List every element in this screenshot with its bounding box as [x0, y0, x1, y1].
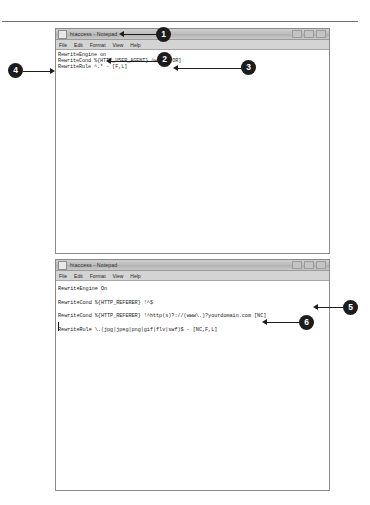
window-1-line-3: RewriteRule ^.* - [F,L] — [58, 64, 327, 70]
menu-file[interactable]: File — [59, 273, 67, 279]
window-2-titlebar[interactable]: htaccess - Notepad — [56, 260, 329, 271]
minimize-button[interactable] — [292, 261, 302, 269]
callout-5-arrow — [313, 304, 318, 310]
callout-5: 5 — [343, 300, 358, 315]
window-1-menubar[interactable]: File Edit Format View Help — [56, 40, 329, 50]
callout-3-arrow — [173, 65, 178, 71]
callout-4-arrow — [50, 68, 55, 74]
callout-1: 1 — [156, 27, 171, 42]
callout-2: 2 — [157, 52, 172, 67]
callout-6: 6 — [299, 315, 314, 330]
maximize-button[interactable] — [304, 30, 314, 38]
callout-2-arrow — [106, 58, 111, 64]
callout-5-leader — [318, 307, 344, 308]
minimize-button[interactable] — [292, 30, 302, 38]
menu-format[interactable]: Format — [90, 273, 106, 279]
menu-file[interactable]: File — [59, 42, 67, 48]
window-1-title: htaccess - Notepad — [70, 31, 117, 37]
menu-format[interactable]: Format — [90, 42, 106, 48]
callout-4-leader — [23, 71, 51, 72]
notepad-icon — [58, 261, 67, 270]
notepad-icon — [58, 30, 67, 39]
window-2-controls[interactable] — [292, 261, 327, 269]
text-caret — [58, 322, 59, 331]
callout-2-leader — [111, 61, 161, 62]
callout-1-leader — [124, 34, 157, 35]
window-1-controls[interactable] — [292, 30, 327, 38]
top-divider — [2, 21, 358, 22]
window-2-title: htaccess - Notepad — [70, 262, 117, 268]
callout-4: 4 — [8, 63, 23, 78]
window-1-text-area[interactable]: RewriteEngine on RewriteCond %{HTTP_USER… — [56, 51, 329, 253]
callout-6-arrow — [262, 319, 267, 325]
maximize-button[interactable] — [304, 261, 314, 269]
notepad-window-2[interactable]: htaccess - Notepad File Edit Format View… — [55, 259, 330, 491]
window-1-titlebar[interactable]: htaccess - Notepad — [56, 29, 329, 40]
menu-help[interactable]: Help — [130, 273, 140, 279]
window-2-menubar[interactable]: File Edit Format View Help — [56, 271, 329, 281]
menu-edit[interactable]: Edit — [74, 42, 83, 48]
callout-3-leader — [178, 68, 242, 69]
menu-view[interactable]: View — [113, 42, 124, 48]
menu-help[interactable]: Help — [130, 42, 140, 48]
menu-view[interactable]: View — [113, 273, 124, 279]
window-2-text-area[interactable]: RewriteEngine On RewriteCond %{HTTP_REFE… — [56, 282, 329, 490]
callout-1-arrow — [119, 31, 124, 37]
window-2-line-4: RewriteRule \.(jpg|jpeg|png|gif|flv|swf)… — [58, 324, 327, 338]
close-button[interactable] — [316, 30, 326, 38]
window-2-line-1: RewriteEngine On — [58, 283, 327, 297]
close-button[interactable] — [316, 261, 326, 269]
notepad-window-1[interactable]: htaccess - Notepad File Edit Format View… — [55, 28, 330, 254]
menu-edit[interactable]: Edit — [74, 273, 83, 279]
callout-6-leader — [267, 322, 300, 323]
window-2-line-2: RewriteCond %{HTTP_REFERER} !^$ — [58, 297, 327, 311]
callout-3: 3 — [241, 60, 256, 75]
